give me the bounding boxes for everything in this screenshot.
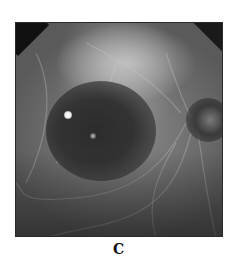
panel-label: C [0,241,237,257]
vignette [16,23,222,236]
fundus-angiogram-image [15,22,223,237]
